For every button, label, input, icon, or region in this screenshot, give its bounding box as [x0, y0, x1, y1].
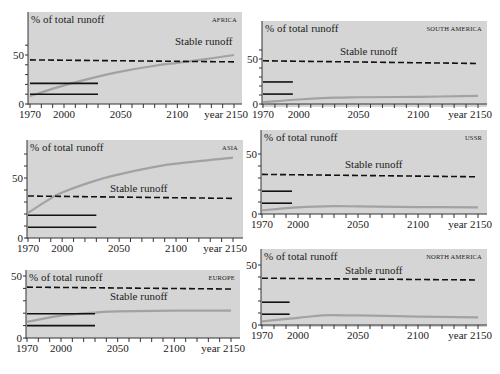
- chart-ussr: 0501970200020502100year 2150% of total r…: [246, 130, 492, 230]
- region-title: NORTH AMERICA: [426, 253, 482, 260]
- x-tick-label: year 2150: [204, 108, 248, 120]
- stable-runoff-label: Stable runoff: [340, 45, 398, 57]
- y-axis-label: % of total runoff: [264, 131, 338, 143]
- x-tick-label: 2050: [347, 329, 370, 341]
- x-tick-label: 1970: [251, 218, 274, 230]
- chart-europe: 0501970200020502100year 2150% of total r…: [11, 270, 245, 354]
- y-axis-label: % of total runoff: [265, 22, 339, 34]
- stable-runoff-label: Stable runoff: [345, 158, 403, 170]
- y-tick-label: 50: [246, 148, 258, 160]
- y-axis-label: % of total runoff: [31, 13, 105, 25]
- x-tick-label: year 2150: [203, 242, 247, 254]
- x-tick-label: year 2150: [201, 342, 245, 354]
- y-tick-label: 50: [13, 49, 25, 61]
- y-tick-label: 50: [247, 53, 259, 65]
- y-tick-label: 50: [12, 172, 24, 184]
- region-title: ASIA: [222, 144, 238, 151]
- region-title: AFRICA: [212, 16, 237, 23]
- chart-asia: 0501970200020502100year 2150% of total r…: [12, 140, 247, 254]
- x-tick-label: 2100: [163, 342, 186, 354]
- x-tick-label: 1970: [19, 108, 42, 120]
- stable-runoff-label: Stable runoff: [175, 35, 233, 47]
- chart-south-america: 0501970200020502100year 2150% of total r…: [247, 21, 492, 120]
- x-tick-label: 2000: [288, 108, 311, 120]
- x-tick-label: 2100: [165, 242, 188, 254]
- x-tick-label: year 2150: [448, 329, 492, 341]
- x-tick-label: 2100: [407, 218, 430, 230]
- y-tick-label: 50: [246, 259, 258, 271]
- y-axis-label: % of total runoff: [30, 141, 104, 153]
- x-tick-label: year 2150: [448, 218, 492, 230]
- x-tick-label: year 2150: [448, 108, 492, 120]
- region-title: USSR: [465, 134, 483, 141]
- x-tick-label: 1970: [252, 108, 275, 120]
- x-tick-label: 1970: [251, 329, 274, 341]
- region-title: EUROPE: [209, 274, 235, 281]
- x-tick-label: 2100: [166, 108, 189, 120]
- x-tick-label: 2000: [51, 242, 74, 254]
- x-tick-label: 2050: [107, 342, 130, 354]
- x-tick-label: 2000: [287, 329, 310, 341]
- x-tick-label: 1970: [17, 242, 40, 254]
- y-axis-label: % of total runoff: [264, 250, 338, 262]
- stable-runoff-label: Stable runoff: [110, 290, 168, 302]
- x-tick-label: 1970: [16, 342, 39, 354]
- chart-africa: 0501970200020502100year 2150% of total r…: [13, 12, 248, 120]
- stable-runoff-label: Stable runoff: [345, 264, 403, 276]
- region-title: SOUTH AMERICA: [426, 25, 482, 32]
- x-tick-label: 2050: [108, 242, 131, 254]
- x-tick-label: 2050: [348, 108, 371, 120]
- chart-north-america: 0501970200020502100year 2150% of total r…: [246, 249, 492, 341]
- x-tick-label: 2050: [110, 108, 133, 120]
- x-tick-label: 2000: [287, 218, 310, 230]
- x-tick-label: 2100: [407, 108, 430, 120]
- y-tick-label: 50: [11, 270, 23, 282]
- x-tick-label: 2000: [53, 108, 76, 120]
- y-axis-label: % of total runoff: [29, 271, 103, 283]
- runoff-figure: 0501970200020502100year 2150% of total r…: [0, 0, 500, 374]
- x-tick-label: 2050: [347, 218, 370, 230]
- x-tick-label: 2100: [407, 329, 430, 341]
- stable-runoff-label: Stable runoff: [110, 182, 168, 194]
- x-tick-label: 2000: [50, 342, 73, 354]
